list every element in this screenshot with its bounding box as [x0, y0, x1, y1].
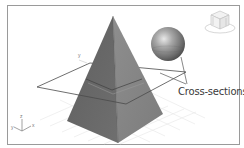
3d-viewport[interactable]: y z y x Cross-sections: [0, 0, 244, 148]
axis-z-label: z: [20, 113, 23, 119]
cross-sections-label: Cross-sections: [178, 86, 244, 97]
axis-y-label: y: [11, 124, 14, 130]
axis-x-label: x: [32, 122, 35, 128]
scene-canvas[interactable]: [0, 0, 244, 148]
plane-axis-label: y: [78, 52, 81, 58]
sphere[interactable]: [151, 27, 185, 61]
